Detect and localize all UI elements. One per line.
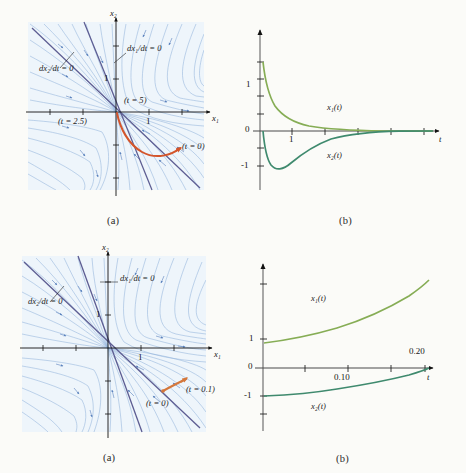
caption-a-top: (a) [107, 215, 119, 226]
time-response-top-right-svg [233, 0, 466, 236]
y-tick-label-1: 1 [104, 73, 109, 83]
caption-b-top: (b) [339, 215, 352, 226]
axis-label-t: t [439, 134, 441, 144]
y-tick-label-1: 1 [249, 333, 254, 343]
panel-time-response-top-right: x₁(t) x₂(t) 1 0 -1 1 t (b) [233, 0, 466, 236]
x-tick-label-010: 0.10 [334, 372, 350, 382]
axes [253, 30, 439, 190]
figure-page: dx₂/dt = 0 dx₁/dt = 0 (t = 5) (t = 2.5) … [0, 0, 466, 473]
panel-phase-portrait-bottom-left: dx₂/dt = 0 dx₁/dt = 0 (t = 0) (t = 0.1) … [0, 236, 233, 473]
y-tick-label-minus1: -1 [244, 390, 252, 400]
time-response-bottom-right-svg [233, 236, 466, 473]
field-background [22, 256, 206, 432]
x-tick-label-1: 1 [289, 134, 294, 144]
y-tick-label-0: 0 [248, 361, 253, 371]
curve-label-x2: x₂(t) [327, 151, 342, 160]
label-marker-t2p5: (t = 2.5) [58, 117, 87, 126]
curve-label-x2: x₂(t) [311, 402, 326, 411]
curve-label-x1: x₁(t) [327, 103, 342, 112]
curve-x1 [263, 62, 433, 131]
axes [255, 264, 433, 431]
x-tick-label-1: 1 [138, 352, 143, 362]
axis-label-x1: x₁ [214, 349, 221, 359]
y-tick-label-1: 1 [246, 79, 251, 89]
phase-portrait-top-left-svg [0, 0, 233, 236]
panel-phase-portrait-top-left: dx₂/dt = 0 dx₁/dt = 0 (t = 5) (t = 2.5) … [0, 0, 233, 236]
x-tick-label-1: 1 [146, 116, 151, 126]
caption-a-bottom: (a) [103, 452, 115, 463]
axis-label-x1: x₁ [212, 113, 219, 123]
label-nullcline-dx1dt: dx₁/dt = 0 [127, 44, 162, 53]
label-marker-t0: (t = 0) [146, 399, 169, 408]
panel-time-response-bottom-right: x₁(t) x₂(t) 1 0 -1 0.10 0.20 t (b) [233, 236, 466, 473]
label-nullcline-dx2dt: dx₂/dt = 0 [28, 297, 63, 306]
label-marker-t0: (t = 0) [182, 142, 205, 151]
phase-portrait-bottom-left-svg [0, 236, 233, 473]
label-nullcline-dx1dt: dx₁/dt = 0 [120, 274, 155, 283]
y-tick-label-0: 0 [245, 124, 250, 134]
label-marker-t0p1: (t = 0.1) [186, 385, 215, 394]
y-tick-label-minus1: -1 [241, 160, 249, 170]
axis-label-x2: x₂ [102, 242, 109, 252]
y-tick-label-1: 1 [96, 309, 101, 319]
curve-label-x1: x₁(t) [311, 294, 326, 303]
label-marker-t5: (t = 5) [124, 96, 147, 105]
label-nullcline-dx2dt: dx₂/dt = 0 [39, 64, 74, 73]
axis-label-t: t [427, 372, 429, 382]
curve-x1 [264, 280, 429, 343]
x-tick-label-020: 0.20 [409, 346, 425, 356]
caption-b-bottom: (b) [336, 453, 349, 464]
axis-label-x2: x₂ [110, 8, 117, 18]
